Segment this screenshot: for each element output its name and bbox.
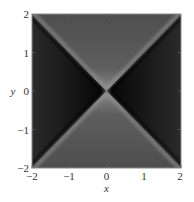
x-axis-label: x	[103, 182, 109, 194]
x-tick-label: 0	[104, 170, 110, 182]
x-tick-label: 2	[177, 170, 183, 182]
density-plot: −2 −1 0 1 2 −2 −1 0 1 2 x y	[0, 0, 194, 202]
y-tick-label: 0	[24, 85, 30, 97]
y-tick-label: −1	[17, 124, 29, 136]
heatmap-area	[30, 13, 183, 169]
y-axis-label: y	[10, 85, 16, 97]
y-tick-label: 1	[24, 47, 30, 59]
y-tick-labels: −2 −1 0 1 2	[17, 8, 29, 174]
x-tick-label: −1	[63, 170, 75, 182]
y-tick-label: −2	[17, 162, 29, 174]
y-tick-label: 2	[24, 8, 30, 20]
x-tick-labels: −2 −1 0 1 2	[26, 170, 183, 182]
x-tick-label: 1	[141, 170, 147, 182]
